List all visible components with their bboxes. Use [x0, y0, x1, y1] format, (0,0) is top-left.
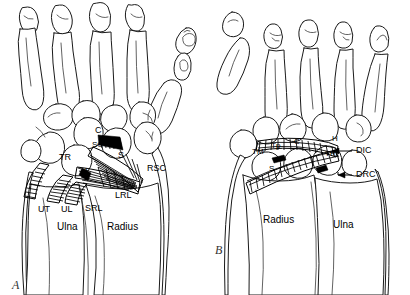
figure-artwork: [0, 0, 410, 295]
label-panel-b-ligament-dic: DIC: [356, 146, 372, 155]
label-panel-b-radius: Radius: [263, 215, 294, 225]
label-panel-b-ulna: Ulna: [333, 220, 354, 230]
label-panel-b-bone-tm: TM: [252, 148, 264, 156]
label-panel-a-bone-s: S: [118, 151, 124, 160]
label-panel-a-bone-l: L: [85, 167, 90, 176]
label-panel-b-bone-c: C: [294, 138, 300, 146]
panel-caption-a: A: [12, 278, 19, 293]
label-panel-a-ulna: Ulna: [57, 222, 78, 232]
label-panel-a-ligament-sc: SC: [92, 141, 103, 149]
label-panel-b-ligament-drc: DRC: [356, 170, 376, 179]
label-panel-a-radius: Radius: [107, 222, 138, 232]
label-panel-a-ligament-ul: UL: [61, 205, 73, 214]
panel-a-artwork: [18, 3, 196, 295]
label-panel-b-bone-tr: TR: [325, 150, 336, 158]
label-panel-a-ligament-ut: UT: [38, 205, 50, 214]
label-panel-b-bone-tp: Tp: [271, 142, 280, 150]
panel-a-proximal-carpal-row: [21, 118, 161, 176]
wrist-ligament-figure: TR L C S SC RSC LRL SRL UL UT Ulna Radiu…: [0, 0, 410, 295]
drc-arrowhead: [338, 172, 345, 178]
panel-caption-b: B: [215, 243, 222, 258]
label-panel-a-bone-c: C: [95, 126, 102, 135]
label-panel-a-ligament-lrl: LRL: [115, 191, 132, 200]
panel-a-phalanges: [19, 3, 144, 35]
label-panel-b-bone-s: S: [269, 165, 274, 173]
label-panel-a-ligament-rsc: RSC: [147, 164, 166, 173]
label-panel-a-bone-tr: TR: [59, 153, 71, 162]
label-panel-a-ligament-srl: SRL: [85, 204, 103, 213]
label-panel-b-bone-h: H: [332, 135, 338, 143]
